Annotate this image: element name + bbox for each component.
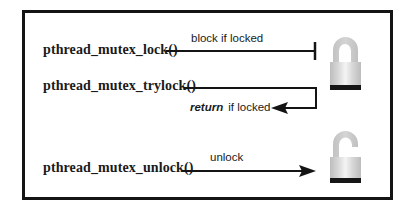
edge-return-if-locked xyxy=(184,88,316,114)
edge-unlock xyxy=(182,165,316,177)
edge-block-if-locked xyxy=(166,42,315,60)
unlocked-padlock-icon xyxy=(330,131,361,183)
diagram-graphics xyxy=(0,0,411,210)
locked-padlock-icon xyxy=(330,37,361,90)
